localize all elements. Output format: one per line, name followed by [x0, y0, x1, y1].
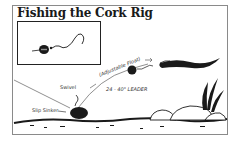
inset-cork-hook-icon [32, 34, 84, 54]
diagram-illustration [0, 0, 239, 148]
eel-bait-icon [159, 58, 220, 68]
seabed-debris [30, 125, 205, 129]
float-arrow-icon [145, 58, 152, 62]
slip-sinker-icon [70, 107, 88, 119]
cork-float-icon [128, 66, 137, 75]
seaweed-icon [202, 78, 224, 112]
swivel-arrow-icon [75, 95, 78, 106]
slip-sinker-label: Slip Sinker [32, 107, 58, 113]
swivel-label: Swivel [60, 84, 76, 90]
sinker-arrow-icon [58, 111, 66, 112]
leader-length-label: 24 - 40" LEADER [106, 86, 147, 92]
